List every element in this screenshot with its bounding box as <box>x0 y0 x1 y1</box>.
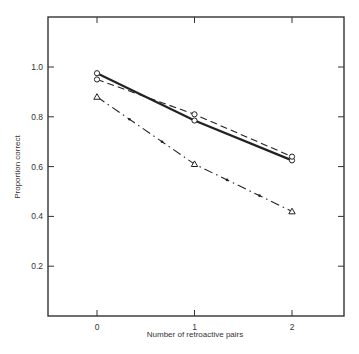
dot-marker <box>226 179 229 182</box>
dot-marker <box>161 140 164 143</box>
dot-marker <box>258 194 261 197</box>
y-tick-label: 0.2 <box>31 261 43 271</box>
circle-marker <box>94 71 99 76</box>
y-tick-label: 0.6 <box>31 162 43 172</box>
triangle-marker <box>94 94 100 100</box>
circle-marker <box>192 118 197 123</box>
x-tick-label: 0 <box>95 322 100 332</box>
x-tick-label: 2 <box>290 322 295 332</box>
y-tick-label: 1.0 <box>31 62 43 72</box>
data-series <box>94 71 295 214</box>
circle-marker <box>94 77 99 82</box>
x-axis-label: Number of retroactive pairs <box>147 330 243 339</box>
y-axis-label: Proportion correct <box>13 134 22 198</box>
line-chart: 0120.20.40.60.81.0 Number of retroactive… <box>0 0 359 354</box>
triangle-marker <box>191 161 197 167</box>
y-tick-label: 0.4 <box>31 211 43 221</box>
circle-marker <box>289 154 294 159</box>
dot-marker <box>128 118 131 121</box>
triangle-marker <box>289 208 295 214</box>
circle-marker <box>192 112 197 117</box>
y-tick-label: 0.8 <box>31 112 43 122</box>
